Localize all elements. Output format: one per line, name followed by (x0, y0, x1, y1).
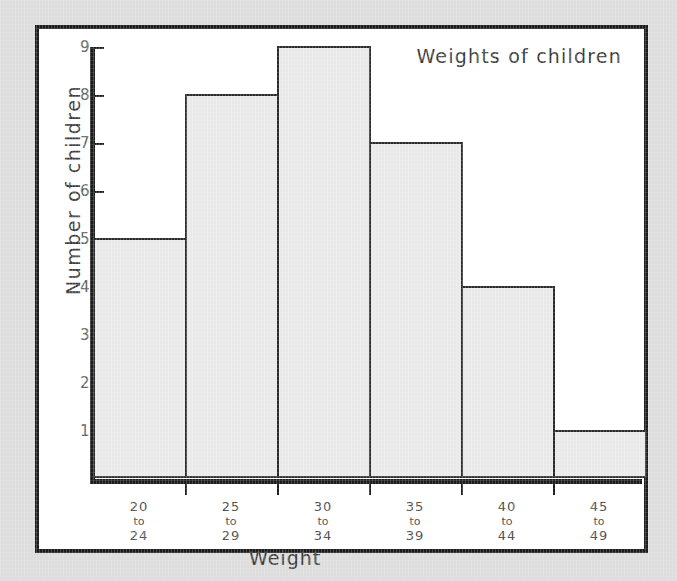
y-tick-mark (95, 143, 104, 145)
y-tick-mark (95, 47, 104, 49)
x-axis-title: Weight (249, 547, 321, 569)
x-tick-mark (185, 484, 187, 495)
histogram-bar (277, 46, 371, 478)
x-label-connector: to (369, 515, 461, 528)
histogram-bar (185, 94, 279, 478)
x-tick-mark (369, 484, 371, 495)
x-label-connector: to (185, 515, 277, 528)
y-tick-label: 1 (68, 422, 90, 440)
x-label-lower-bound: 20 (93, 499, 185, 515)
y-tick-label: 8 (68, 86, 90, 104)
y-tick-label: 3 (68, 326, 90, 344)
x-label-upper-bound: 29 (185, 528, 277, 544)
plot-area: Weights of children Number of children 1… (39, 29, 644, 549)
histogram-bar (369, 142, 463, 478)
x-axis-label: 30to34 (277, 499, 369, 544)
x-label-connector: to (553, 515, 645, 528)
y-tick-mark (95, 95, 104, 97)
histogram-bar (553, 430, 647, 478)
x-tick-mark (277, 484, 279, 495)
y-tick-label: 4 (68, 278, 90, 296)
figure-frame: Weights of children Number of children 1… (35, 25, 648, 553)
x-label-connector: to (93, 515, 185, 528)
x-label-connector: to (277, 515, 369, 528)
x-label-lower-bound: 40 (461, 499, 553, 515)
x-axis-label: 40to44 (461, 499, 553, 544)
x-label-upper-bound: 44 (461, 528, 553, 544)
chart-title: Weights of children (416, 45, 622, 67)
y-tick-label: 6 (68, 182, 90, 200)
y-tick-label: 5 (68, 230, 90, 248)
x-tick-mark (553, 484, 555, 495)
y-tick-label: 7 (68, 134, 90, 152)
x-label-lower-bound: 45 (553, 499, 645, 515)
x-axis-line (90, 479, 642, 484)
y-tick-label: 9 (68, 38, 90, 56)
x-label-upper-bound: 39 (369, 528, 461, 544)
x-axis-label: 25to29 (185, 499, 277, 544)
x-label-lower-bound: 35 (369, 499, 461, 515)
histogram-bar (461, 286, 555, 478)
x-label-lower-bound: 30 (277, 499, 369, 515)
x-axis-label: 20to24 (93, 499, 185, 544)
x-label-connector: to (461, 515, 553, 528)
x-label-upper-bound: 24 (93, 528, 185, 544)
y-tick-mark (95, 191, 104, 193)
y-tick-label: 2 (68, 374, 90, 392)
x-label-upper-bound: 34 (277, 528, 369, 544)
x-tick-mark (645, 484, 647, 495)
histogram-bar (93, 238, 187, 478)
x-label-upper-bound: 49 (553, 528, 645, 544)
x-axis-label: 35to39 (369, 499, 461, 544)
x-label-lower-bound: 25 (185, 499, 277, 515)
x-tick-mark (461, 484, 463, 495)
x-axis-label: 45to49 (553, 499, 645, 544)
